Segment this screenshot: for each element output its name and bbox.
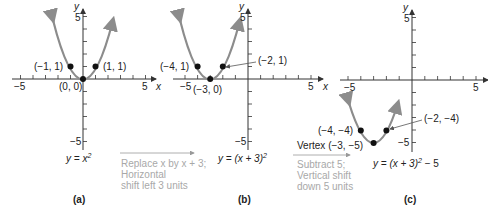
point-label: (1, 1)	[103, 61, 126, 72]
transition-text: shift left 3 units	[121, 180, 188, 191]
y-axis-label: y	[402, 2, 409, 13]
y-max-tick-label: 5	[404, 13, 410, 24]
y-min-tick-label: −5	[398, 137, 410, 148]
point-label: (−2, 1)	[258, 55, 287, 66]
y-max-tick-label: 5	[75, 12, 81, 23]
equation-label: y = x2	[65, 152, 91, 164]
x-axis	[340, 76, 488, 80]
figure: −5 5 x y 5 −5 (−1, 1) (0, 0) (1, 1) y = …	[0, 0, 488, 211]
transition-text: Subtract 5;	[297, 159, 345, 170]
equation-label: y = (x + 3)2	[217, 152, 267, 164]
parabola-curve	[349, 103, 398, 143]
y-axis-label: y	[238, 1, 245, 12]
point-label: (−4, 1)	[160, 61, 189, 72]
x-max-tick-label: 5	[308, 81, 314, 92]
y-min-tick-label: −5	[235, 136, 247, 147]
x-min-tick-label: −5	[180, 81, 192, 92]
transition-text: Vertical shift	[297, 170, 351, 181]
x-axis-label: x	[322, 81, 329, 92]
x-max-tick-label: 5	[473, 82, 479, 93]
panel-label: (a)	[73, 194, 85, 205]
vertex-label: Vertex (−3, −5)	[297, 140, 363, 151]
x-min-tick-label: −5	[14, 81, 26, 92]
point-label: (−1, 1)	[34, 61, 63, 72]
transition-text: Horizontal	[121, 169, 166, 180]
y-min-tick-label: −5	[70, 136, 82, 147]
transition-text: Replace x by x + 3;	[121, 158, 206, 169]
point-label: (−4, −4)	[318, 125, 353, 136]
point-label: (−3, 0)	[193, 84, 222, 95]
y-max-tick-label: 5	[240, 12, 246, 23]
equation-label: y = (x + 3)2 − 5	[372, 157, 439, 169]
panel-label: (c)	[404, 194, 416, 205]
x-axis-label: x	[155, 81, 162, 92]
transition-b-to-c: Subtract 5; Vertical shift down 5 units	[293, 155, 353, 192]
point-label: (0, 0)	[59, 81, 82, 92]
point-label: (−2, −4)	[424, 113, 459, 124]
x-min-tick-label: −5	[344, 82, 356, 93]
transition-a-to-b: Replace x by x + 3; Horizontal shift lef…	[120, 153, 206, 191]
x-max-tick-label: 5	[142, 81, 148, 92]
pointer-line	[390, 120, 422, 129]
y-axis	[412, 10, 416, 152]
y-axis-label: y	[73, 1, 80, 12]
transition-text: down 5 units	[297, 181, 353, 192]
panel-label: (b)	[238, 194, 251, 205]
